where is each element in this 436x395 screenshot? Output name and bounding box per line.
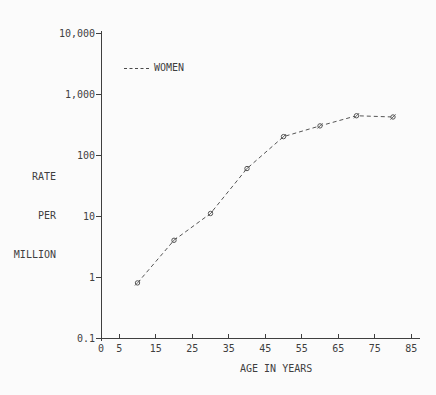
x-tick-label: 0: [98, 343, 104, 354]
y-tick-label: 10,000: [59, 28, 95, 39]
data-point-marker: [317, 123, 322, 128]
x-axis-title: AGE IN YEARS: [240, 363, 312, 374]
x-tick-label: 35: [223, 343, 235, 354]
y-tick-label: 0.1: [77, 333, 95, 344]
x-tick-label: 75: [369, 343, 381, 354]
dashed-line-icon: [124, 68, 149, 69]
y-tick-label: 100: [77, 150, 95, 161]
data-point-marker: [354, 113, 359, 118]
data-point-marker: [171, 238, 176, 243]
legend-label: WOMEN: [154, 62, 184, 74]
y-tick-label: 1,000: [65, 89, 95, 100]
y-axis-title-line: PER: [2, 209, 56, 222]
data-point-marker: [135, 280, 140, 285]
y-axis-title-line: RATE: [2, 170, 56, 183]
x-tick-label: 85: [405, 343, 417, 354]
x-tick-label: 5: [116, 343, 122, 354]
x-tick-label: 55: [296, 343, 308, 354]
data-point-marker: [244, 166, 249, 171]
y-axis-title: RATE PER MILLION: [2, 144, 56, 287]
data-point-marker: [281, 134, 286, 139]
chart-figure: 0.11101001,00010,000051525354555657585 R…: [0, 0, 436, 395]
plot-svg: 0.11101001,00010,000051525354555657585: [0, 0, 436, 395]
y-tick-label: 1: [89, 272, 95, 283]
x-tick-label: 15: [150, 343, 162, 354]
x-tick-label: 45: [259, 343, 271, 354]
x-tick-label: 65: [332, 343, 344, 354]
data-series-line: [138, 116, 394, 283]
y-tick-label: 10: [83, 211, 95, 222]
data-point-marker: [390, 114, 395, 119]
y-axis-title-line: MILLION: [2, 248, 56, 261]
data-point-marker: [208, 211, 213, 216]
legend: WOMEN: [124, 62, 184, 74]
x-tick-label: 25: [186, 343, 198, 354]
